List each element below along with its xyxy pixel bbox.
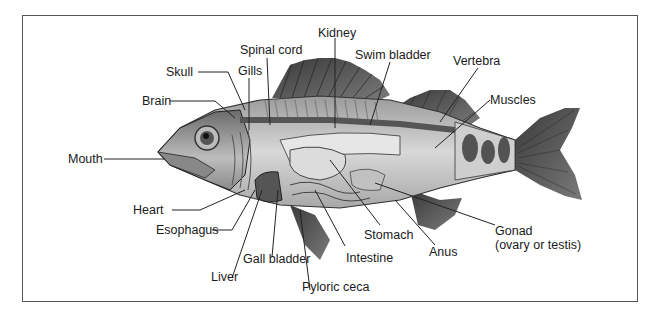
dorsal-fin-spiny	[272, 58, 390, 100]
label-skull: Skull	[166, 65, 193, 79]
label-gall-bladder: Gall bladder	[243, 252, 310, 266]
label-gills: Gills	[238, 64, 262, 78]
label-intestine: Intestine	[346, 251, 393, 265]
fish-head	[158, 110, 250, 190]
label-swim-bladder: Swim bladder	[355, 48, 431, 62]
label-esophagus: Esophagus	[156, 223, 219, 237]
label-gonad: Gonad	[495, 224, 533, 238]
caudal-peduncle	[455, 122, 515, 180]
label-spinal-cord: Spinal cord	[240, 43, 303, 57]
label-pyloric-ceca: Pyloric ceca	[302, 280, 369, 294]
caudal-fin	[515, 108, 582, 200]
gonad-organ	[350, 169, 385, 190]
label-stomach: Stomach	[364, 228, 413, 242]
label-liver: Liver	[211, 270, 238, 284]
label-mouth: Mouth	[68, 152, 103, 166]
label-muscles: Muscles	[490, 93, 536, 107]
label-gonad-note: (ovary or testis)	[495, 238, 581, 252]
label-vertebra: Vertebra	[453, 54, 500, 68]
label-brain: Brain	[142, 94, 171, 108]
label-heart: Heart	[133, 203, 164, 217]
label-anus: Anus	[429, 245, 458, 259]
anal-fin	[410, 190, 462, 230]
label-kidney: Kidney	[318, 26, 356, 40]
